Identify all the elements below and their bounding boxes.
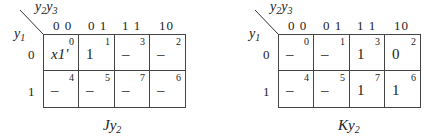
minterm-index: 2 (176, 36, 181, 47)
cell-value: – (286, 82, 294, 99)
row-variable-label: y1 (249, 27, 260, 45)
cell-m3: 3 – (115, 35, 150, 71)
cell-m5: 5 – (79, 71, 115, 107)
kmap-ky2: y2y3 y1 0 0 0 1 1 1 10 0 1 0 – 1 – 3 1 2… (235, 0, 438, 140)
kmap-grid: 0 – 1 – 3 1 2 0 4 – 5 – 7 1 6 1 (278, 34, 421, 108)
cell-value: 0 (392, 46, 400, 63)
cell-m4: 4 – (279, 71, 314, 107)
minterm-index: 6 (176, 72, 181, 83)
cell-m3: 3 1 (350, 35, 385, 71)
cell-value: – (122, 82, 130, 99)
minterm-index: 5 (340, 72, 345, 83)
cell-value: x1' (51, 46, 68, 63)
minterm-index: 6 (411, 72, 416, 83)
cell-m2: 2 – (150, 35, 185, 71)
minterm-index: 7 (140, 72, 145, 83)
map-caption: Jy2 (103, 117, 121, 135)
cell-m4: 4 – (44, 71, 79, 107)
cell-m2: 2 0 (385, 35, 420, 71)
minterm-index: 2 (411, 36, 416, 47)
cell-value: 1 (392, 82, 400, 99)
cell-m1: 1 1 (79, 35, 115, 71)
col-header-00: 0 0 (288, 18, 307, 34)
row-header-1: 1 (263, 84, 270, 100)
row-header-0: 0 (28, 47, 35, 63)
minterm-index: 1 (340, 36, 345, 47)
cell-value: – (122, 46, 130, 63)
map-caption: Ky2 (338, 117, 360, 135)
cell-value: – (157, 82, 165, 99)
column-variables-label: y2y3 (35, 0, 57, 18)
cell-value: – (157, 46, 165, 63)
cell-value: – (321, 82, 329, 99)
cell-m6: 6 1 (385, 71, 420, 107)
col-header-10: 10 (159, 18, 174, 34)
minterm-index: 4 (69, 72, 74, 83)
minterm-index: 4 (304, 72, 309, 83)
cell-m7: 7 – (115, 71, 150, 107)
col-header-11: 1 1 (122, 18, 141, 34)
minterm-index: 5 (105, 72, 110, 83)
cell-m5: 5 – (314, 71, 350, 107)
cell-value: 1 (86, 46, 94, 63)
minterm-index: 3 (140, 36, 145, 47)
minterm-index: 7 (375, 72, 380, 83)
col-header-01: 0 1 (88, 18, 107, 34)
cell-m6: 6 – (150, 71, 185, 107)
cell-value: 1 (357, 46, 365, 63)
cell-m1: 1 – (314, 35, 350, 71)
kmap-jy2: y2y3 y1 0 0 0 1 1 1 10 0 1 0 x1' 1 1 3 –… (0, 0, 219, 140)
col-header-01: 0 1 (323, 18, 342, 34)
cell-value: – (51, 82, 59, 99)
row-header-1: 1 (28, 84, 35, 100)
cell-m7: 7 1 (350, 71, 385, 107)
cell-value: – (286, 46, 294, 63)
cell-m0: 0 – (279, 35, 314, 71)
col-header-00: 0 0 (53, 18, 72, 34)
minterm-index: 0 (69, 36, 74, 47)
minterm-index: 1 (105, 36, 110, 47)
col-header-11: 1 1 (357, 18, 376, 34)
cell-value: – (321, 46, 329, 63)
column-variables-label: y2y3 (270, 0, 292, 18)
minterm-index: 3 (375, 36, 380, 47)
cell-value: 1 (357, 82, 365, 99)
kmap-grid: 0 x1' 1 1 3 – 2 – 4 – 5 – 7 – 6 – (43, 34, 186, 108)
cell-m0: 0 x1' (44, 35, 79, 71)
row-variable-label: y1 (14, 27, 25, 45)
cell-value: – (86, 82, 94, 99)
row-header-0: 0 (263, 47, 270, 63)
minterm-index: 0 (304, 36, 309, 47)
col-header-10: 10 (394, 18, 409, 34)
